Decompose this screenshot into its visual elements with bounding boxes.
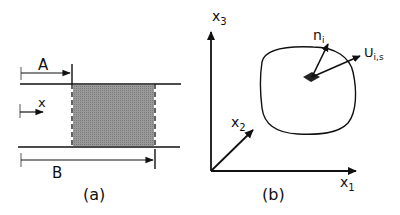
label-normal: ni: [313, 27, 324, 45]
label-x3: x3: [212, 8, 227, 27]
label-x1: x1: [340, 174, 355, 193]
label-x: x: [38, 95, 46, 110]
normal-vector: [312, 44, 328, 77]
label-b: B: [52, 164, 62, 182]
shaded-region: [73, 85, 154, 146]
axis-x2: [211, 130, 253, 171]
figure: A x B (a) x3 x2 x1 ni Ui,s (b): [0, 0, 400, 215]
label-x2: x2: [231, 114, 246, 133]
caption-a: (a): [83, 185, 105, 204]
panel-a: A x B (a): [18, 56, 181, 204]
body-outline: [261, 47, 356, 135]
label-velocity: Ui,s: [364, 45, 384, 62]
caption-b: (b): [262, 185, 285, 204]
panel-b: x3 x2 x1 ni Ui,s (b): [211, 8, 384, 204]
label-a: A: [38, 56, 49, 74]
surface-element-icon: [303, 72, 320, 82]
